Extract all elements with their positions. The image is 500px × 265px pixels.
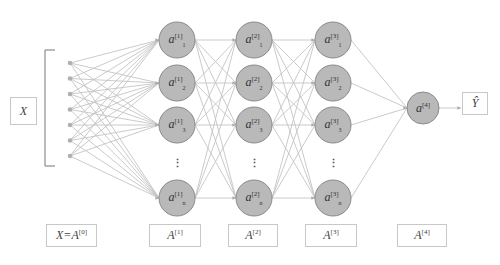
edge [70,63,159,198]
neuron-layer-2-n [236,180,272,216]
neuron-layer-3-3 [315,107,351,143]
input-feature-dot [68,154,73,159]
layer-1-label-box: A[1] [149,224,201,247]
layer-3-label-box: A[3] [305,224,357,247]
edge [70,40,159,94]
input-feature-dot [68,61,73,66]
input-features [68,61,73,159]
layer-0-label-box: X=A[0] [46,224,97,247]
neuron-layer-2-1 [236,22,272,58]
edge [351,108,407,125]
edge [70,83,159,94]
ellipsis-layer-2: ⋮ [249,161,260,165]
input-feature-dot [68,138,73,143]
neuron-layer-2-2 [236,65,272,101]
neuron-layer-1-n [159,180,195,216]
edge [70,125,159,156]
neuron-output [407,92,439,124]
neuron-layer-2-3 [236,107,272,143]
neuron-layer-1-1 [159,22,195,58]
output-yhat-box: Ŷ [462,92,488,115]
layer-4-label-box: A[4] [397,224,447,247]
edge [70,83,159,125]
neuron-layer-3-2 [315,65,351,101]
input-bracket [45,50,55,166]
edge [351,83,407,108]
edge [70,125,159,198]
neuron-layer-3-n [315,180,351,216]
neuron-layer-3-1 [315,22,351,58]
layer-3-label: A[3] [323,228,339,243]
input-feature-dot [68,92,73,97]
ellipsis-layer-1: ⋮ [172,161,183,165]
input-feature-dot [68,76,73,81]
output-yhat-label: Ŷ [472,96,479,111]
edge [351,40,407,108]
input-x-box: X [10,97,37,125]
layer-2-label-box: A[2] [228,224,278,247]
edge [70,141,159,199]
layer-2-label: A[2] [245,228,261,243]
layer-0-label: X=A[0] [56,228,87,243]
neuron-layer-1-3 [159,107,195,143]
ellipsis-layer-3: ⋮ [328,161,339,165]
edge [70,40,159,110]
input-x-label: X [20,104,27,119]
edge [351,108,407,198]
input-feature-dot [68,107,73,112]
arrowhead-icon [457,106,461,109]
layer-4-label: A[4] [414,228,430,243]
input-feature-dot [68,123,73,128]
neuron-layer-1-2 [159,65,195,101]
layer-1-label: A[1] [167,228,183,243]
